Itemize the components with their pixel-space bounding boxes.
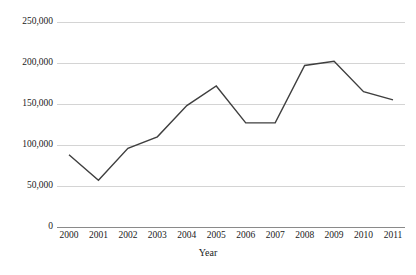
- x-axis-tick-label: 2011: [384, 231, 403, 241]
- x-axis-baseline: [57, 227, 405, 228]
- x-axis-title: Year: [0, 248, 416, 258]
- series-line: [57, 22, 405, 227]
- x-axis-tick-label: 2002: [118, 231, 137, 241]
- y-axis-tick-label: 200,000: [0, 58, 53, 68]
- x-axis-tick-label: 2000: [60, 231, 79, 241]
- x-axis-tick-labels: 2000200120022003200420052006200720082009…: [57, 231, 405, 245]
- line-chart: 050,000100,000150,000200,000250,000 2000…: [0, 0, 416, 275]
- y-axis-tick-label: 100,000: [0, 140, 53, 150]
- x-axis-tick-label: 2004: [177, 231, 196, 241]
- x-axis-tick-label: 2008: [295, 231, 314, 241]
- x-axis-tick-label: 2006: [236, 231, 255, 241]
- y-axis-tick-label: 150,000: [0, 99, 53, 109]
- y-axis-tick-label: 50,000: [0, 181, 53, 191]
- plot-area: [57, 22, 405, 227]
- y-axis-tick-labels: 050,000100,000150,000200,000250,000: [0, 0, 53, 275]
- series-polyline: [69, 61, 393, 180]
- x-axis-tick-label: 2005: [207, 231, 226, 241]
- y-axis-tick-label: 250,000: [0, 17, 53, 27]
- x-axis-tick-label: 2010: [354, 231, 373, 241]
- x-axis-tick-label: 2003: [148, 231, 167, 241]
- x-axis-tick-label: 2009: [325, 231, 344, 241]
- x-axis-tick-label: 2007: [266, 231, 285, 241]
- y-axis-tick-label: 0: [0, 222, 53, 232]
- x-axis-tick-label: 2001: [89, 231, 108, 241]
